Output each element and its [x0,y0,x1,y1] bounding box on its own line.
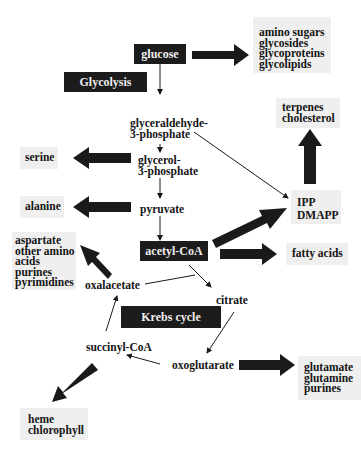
product-sugars: amino sugars glycosides glycoproteins gl… [253,17,331,73]
product-ipp-dmapp: IPP DMAPP [291,190,341,224]
node-acetyl-coa: acetyl-CoA [140,241,208,261]
arrow-acetylcoa-to-citrate [189,265,211,287]
thick-arrow-oxoglutarate-to-glutamate [239,354,295,376]
product-fatty-acids: fatty acids [286,243,348,265]
product-terpenes: terpenes cholesterol [276,98,340,128]
product-heme-chlorophyll: heme chlorophyll [20,408,88,440]
node-glycerol-3-phosphate: glycerol- 3-phosphate [138,155,198,177]
acetyl-coa-label: acetyl-CoA [145,245,202,257]
node-glucose: glucose [134,44,186,64]
thick-arrow-glycerol3p-to-serine [73,147,131,169]
thick-arrow-ipp-to-terpenes [298,129,322,184]
node-oxoglutarate: oxoglutarate [172,360,234,371]
node-succinyl-coa: succinyl-CoA [86,342,152,353]
arrow-oxoglutarate-to-succinylcoa [127,355,160,364]
thick-arrow-acetylcoa-to-fattyacids [220,243,277,265]
node-krebs-cycle: Krebs cycle [121,306,221,328]
node-glyceraldehyde-3-phosphate: glyceraldehyde- 3-phosphate [130,118,208,140]
thick-arrow-pyruvate-to-alanine [73,196,131,218]
product-aspartate: aspartate other amino acids purines pyri… [12,232,76,290]
thick-arrow-oxalacetate-to-aspartate [80,245,112,279]
thick-arrow-succinylcoa-to-heme [52,363,98,402]
arrow-g3p-to-ipp [194,132,288,198]
glycolysis-label: Glycolysis [79,76,131,88]
node-glycolysis: Glycolysis [64,72,147,92]
line-oxalacetate-join [145,275,195,284]
node-oxalacetate: oxalacetate [85,280,140,291]
glucose-label: glucose [141,48,178,60]
product-serine: serine [20,147,58,169]
node-pyruvate: pyruvate [140,204,184,215]
krebs-cycle-label: Krebs cycle [141,311,200,323]
product-alanine: alanine [20,196,64,218]
arrow-succinylcoa-to-oxalacetate [106,296,117,331]
product-glutamate: glutamate glutamine purines [298,356,361,400]
thick-arrow-acetylcoa-to-ipp [212,208,287,248]
node-citrate: citrate [216,295,248,306]
thick-arrow-glucose-to-sugars [192,44,249,66]
